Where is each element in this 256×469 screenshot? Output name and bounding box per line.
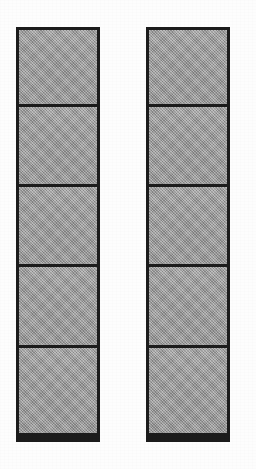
right-column-segment-2	[149, 104, 227, 184]
left-column	[16, 27, 100, 442]
left-column-segment-3	[19, 184, 97, 264]
left-column-segment-5	[19, 345, 97, 433]
right-column-segment-4	[149, 264, 227, 345]
left-column-segment-4	[19, 264, 97, 345]
right-column	[146, 27, 230, 442]
right-column-segment-1	[149, 30, 227, 104]
left-column-segment-1	[19, 30, 97, 104]
right-column-segment-3	[149, 184, 227, 264]
left-column-segment-2	[19, 104, 97, 184]
figure-canvas	[0, 0, 256, 469]
right-column-segment-5	[149, 345, 227, 433]
